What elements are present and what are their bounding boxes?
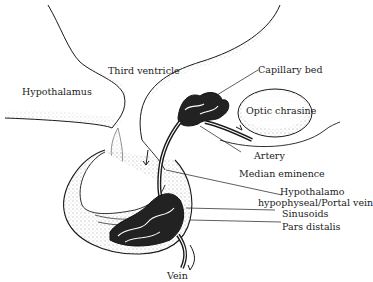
artery-arrow-icon bbox=[236, 125, 242, 130]
vein bbox=[178, 235, 195, 270]
label-vein: Vein bbox=[167, 270, 188, 281]
label-median-eminence: Median eminence bbox=[239, 168, 325, 179]
label-portal-vein-line1: Hypothalamo bbox=[280, 186, 344, 197]
label-sinusoids: Sinusoids bbox=[282, 208, 328, 219]
capillary-bed bbox=[178, 93, 229, 126]
label-artery: Artery bbox=[254, 150, 285, 161]
label-portal-vein-line2: hypophyseal/Portal vein bbox=[258, 197, 373, 208]
optic-chiasma bbox=[220, 89, 340, 147]
label-capillary-bed: Capillary bed bbox=[258, 64, 323, 75]
label-hypothalamus: Hypothalamus bbox=[22, 86, 92, 97]
vein-arrow-icon bbox=[188, 245, 195, 270]
label-third-ventricle: Third ventricle bbox=[108, 65, 180, 76]
label-pars-distalis: Pars distalis bbox=[282, 221, 341, 232]
label-optic-chiasma: Optic chrasine bbox=[246, 105, 316, 116]
